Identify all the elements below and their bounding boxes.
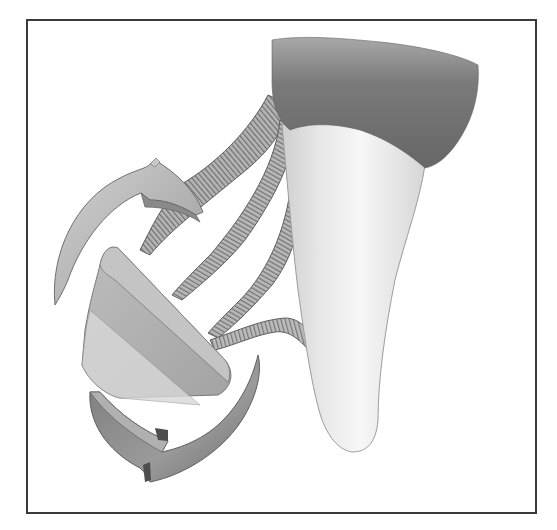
tooth-ligament-illustration xyxy=(0,0,557,530)
tooth-root xyxy=(282,119,425,452)
